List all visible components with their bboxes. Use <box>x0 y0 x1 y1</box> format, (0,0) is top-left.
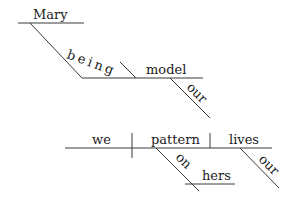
word-hers: hers <box>202 168 231 183</box>
word-mary: Mary <box>33 7 68 22</box>
word-pattern: pattern <box>151 132 200 147</box>
word-we: we <box>92 132 111 147</box>
word-being: being <box>65 47 119 79</box>
word-our-2: our <box>256 152 283 179</box>
sentence-diagram: Mary being model our we pattern lives on… <box>0 0 296 203</box>
complement-slant <box>120 62 136 78</box>
word-model: model <box>146 62 186 77</box>
word-our-1: our <box>184 80 211 107</box>
word-lives: lives <box>229 132 259 147</box>
